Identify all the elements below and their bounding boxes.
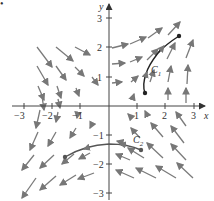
c2-label: C2	[133, 134, 144, 148]
c2-endpoint	[63, 155, 67, 159]
vector-field-figure: −3 −2 −1 1 2 3 x y 3 2 1 −1 −2 −3 C1	[0, 0, 214, 201]
svg-text:2: 2	[97, 42, 102, 53]
svg-text:x: x	[203, 110, 209, 121]
x-tick-labels: −3 −2 −1 1 2 3 x	[14, 110, 209, 121]
svg-text:−1: −1	[72, 110, 83, 121]
svg-text:1: 1	[97, 72, 102, 83]
svg-text:−2: −2	[42, 110, 53, 121]
c1-startpoint	[143, 91, 147, 95]
svg-text:y: y	[98, 1, 104, 12]
c1-endpoint	[177, 34, 181, 38]
svg-text:3: 3	[97, 13, 102, 24]
svg-text:−3: −3	[93, 188, 104, 199]
svg-text:2: 2	[162, 110, 167, 121]
corner-marker: •	[0, 0, 4, 9]
c2-startpoint	[139, 148, 143, 152]
curve-c1: C1	[143, 34, 181, 95]
svg-text:1: 1	[134, 110, 139, 121]
svg-text:−3: −3	[14, 110, 25, 121]
vector-field-plot: −3 −2 −1 1 2 3 x y 3 2 1 −1 −2 −3 C1	[0, 0, 214, 201]
svg-text:3: 3	[191, 110, 196, 121]
y-tick-labels: y 3 2 1 −1 −2 −3	[93, 1, 104, 199]
svg-text:−2: −2	[93, 159, 104, 170]
svg-text:−1: −1	[93, 130, 104, 141]
axes	[12, 4, 205, 200]
